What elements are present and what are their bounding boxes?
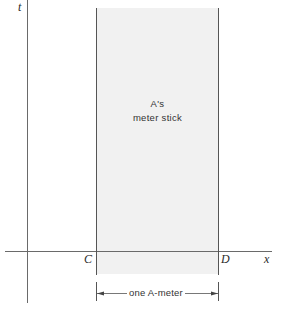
spacetime-diagram: t x C D A's meter stick one A-meter xyxy=(0,0,281,309)
meter-stick-region xyxy=(97,8,218,274)
point-c-label: C xyxy=(84,252,92,267)
meter-stick-label-line1: A's xyxy=(97,98,218,109)
dimension-label: one A-meter xyxy=(127,287,185,298)
arrow-right-icon xyxy=(211,292,218,296)
meter-stick-label-line2: meter stick xyxy=(97,112,218,123)
arrow-left-icon xyxy=(97,292,104,296)
t-axis-label: t xyxy=(18,0,21,15)
x-axis-label: x xyxy=(264,252,269,267)
diagram-graphics xyxy=(0,0,281,309)
point-d-label: D xyxy=(221,252,230,267)
